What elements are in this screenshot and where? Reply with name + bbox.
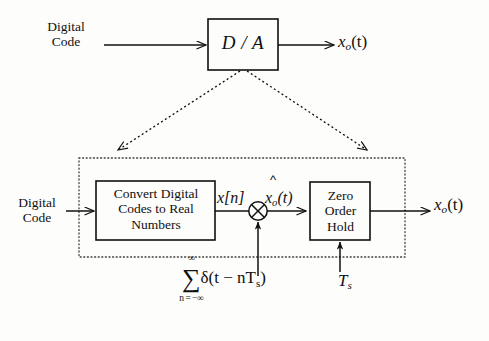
top-output-arg: (t) [351, 32, 367, 51]
impulse-train-formula: ∞ ∑ n = −∞ δ(t − nTs) [182, 268, 266, 289]
expansion-arrows [118, 71, 367, 150]
top-input-label-line1: Digital [35, 20, 97, 35]
sampling-period-label: Ts [338, 272, 352, 291]
bottom-output-base: x [434, 195, 442, 214]
signal-label-xo-hat: xo(t) [265, 189, 293, 208]
summation-symbol: ∞ ∑ n = −∞ [182, 268, 201, 289]
convert-block-line2: Codes to Real [97, 201, 215, 216]
convert-block-label: Convert Digital Codes to Real Numbers [97, 186, 215, 232]
delta-expression-close: ) [260, 268, 266, 287]
sigma-glyph: ∑ [182, 264, 201, 293]
xo-hat-arg: (t) [277, 189, 292, 206]
dashed-expansion-arrow-left [118, 71, 240, 150]
ts-subscript: s [347, 279, 351, 291]
hat-accent-mark: ^ [270, 173, 276, 187]
zero-order-hold-label: Zero Order Hold [311, 188, 370, 234]
zoh-line2: Order [311, 203, 370, 218]
zoh-line3: Hold [311, 219, 370, 234]
convert-block-line3: Numbers [97, 217, 215, 232]
bottom-input-label-line2: Code [6, 211, 68, 226]
top-input-label-line2: Code [35, 35, 97, 50]
bottom-input-label-line1: Digital [6, 196, 68, 211]
signal-label-xn: x[n] [217, 189, 245, 206]
dashed-expansion-arrow-right [247, 71, 367, 150]
top-output-base: x [338, 32, 346, 51]
bottom-output-label: xo(t) [434, 196, 463, 215]
convert-block-line1: Convert Digital [97, 186, 215, 201]
top-input-label: Digital Code [35, 20, 97, 49]
sum-lower-limit: n = −∞ [179, 295, 203, 303]
da-block-label: D / A [208, 32, 278, 54]
bottom-output-arg: (t) [447, 195, 463, 214]
zoh-line1: Zero [311, 188, 370, 203]
da-converter-block-diagram: Digital Code D / A xo(t) Digital Code Co… [0, 0, 489, 341]
bottom-input-label: Digital Code [6, 196, 68, 225]
sum-upper-limit: ∞ [188, 255, 194, 263]
top-output-label: xo(t) [338, 33, 367, 52]
xn-index: [n] [224, 189, 244, 206]
delta-expression: δ(t − nT [201, 268, 256, 287]
